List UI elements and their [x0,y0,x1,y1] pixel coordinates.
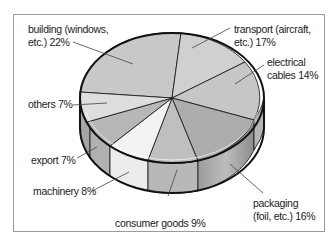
label-packaging-line1: packaging [253,197,315,210]
label-transport-line2: etc.) 17% [234,36,311,49]
label-electrical-line1: electrical [267,56,318,69]
label-machinery-line1: machinery 8% [33,185,96,198]
label-export-line1: export 7% [31,154,76,167]
label-transport-line1: transport (aircraft, [234,23,311,36]
slice-side-consumer [148,160,198,193]
label-consumer-line1: consumer goods 9% [115,217,206,230]
label-transport: transport (aircraft, etc.) 17% [234,23,311,49]
label-electrical-line2: cables 14% [267,69,318,82]
label-building-line2: etc.) 22% [28,36,108,49]
label-building-line1: building (windows, [28,23,108,36]
label-others: others 7% [28,98,73,111]
leader-packaging [230,164,263,193]
label-export: export 7% [31,154,76,167]
label-machinery: machinery 8% [33,185,96,198]
label-others-line1: others 7% [28,98,73,111]
label-packaging-line2: (foil, etc.) 16% [253,210,315,223]
label-consumer: consumer goods 9% [115,217,206,230]
label-electrical: electrical cables 14% [267,56,318,82]
pie-top [80,33,264,163]
label-packaging: packaging (foil, etc.) 16% [253,197,315,223]
label-building: building (windows, etc.) 22% [28,23,108,49]
